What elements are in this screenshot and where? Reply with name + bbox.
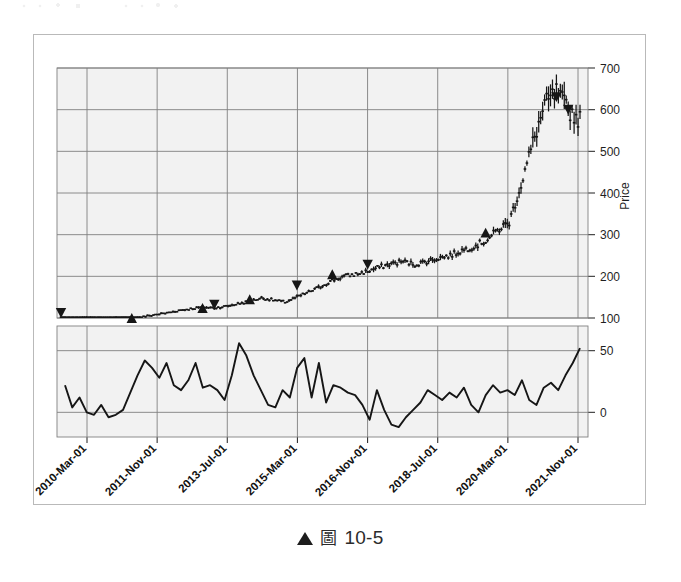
- price-chart: 1002003004005006007000502010-Mar-012011-…: [0, 0, 681, 582]
- figure-number: 10-5: [344, 527, 383, 549]
- svg-text:2020-Mar-01: 2020-Mar-01: [454, 442, 510, 498]
- svg-text:2016-Nov-01: 2016-Nov-01: [313, 442, 370, 499]
- svg-text:2010-Mar-01: 2010-Mar-01: [33, 442, 89, 498]
- svg-text:0: 0: [600, 406, 607, 420]
- figure-symbol-icon: 圖: [320, 530, 337, 547]
- figure-root: 1002003004005006007000502010-Mar-012011-…: [0, 0, 681, 582]
- svg-text:300: 300: [600, 228, 620, 242]
- triangle-icon: [297, 532, 313, 545]
- svg-text:600: 600: [600, 103, 620, 117]
- svg-text:50: 50: [600, 344, 614, 358]
- svg-text:500: 500: [600, 145, 620, 159]
- svg-text:700: 700: [600, 62, 620, 76]
- figure-caption: 圖 10-5: [0, 527, 681, 549]
- svg-text:2018-Jul-01: 2018-Jul-01: [386, 442, 439, 495]
- svg-text:100: 100: [600, 312, 620, 326]
- svg-text:2021-Nov-01: 2021-Nov-01: [523, 442, 580, 499]
- svg-text:200: 200: [600, 270, 620, 284]
- svg-text:2011-Nov-01: 2011-Nov-01: [103, 442, 159, 498]
- svg-text:Price: Price: [618, 182, 632, 210]
- svg-text:2015-Mar-01: 2015-Mar-01: [243, 442, 299, 498]
- svg-text:2013-Jul-01: 2013-Jul-01: [176, 442, 229, 495]
